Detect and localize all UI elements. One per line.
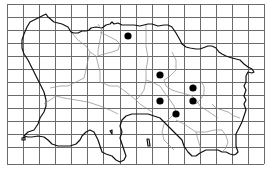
record-dot: [189, 97, 196, 104]
distribution-map: [0, 0, 269, 181]
islet: [147, 139, 150, 146]
grid-lines: [7, 4, 265, 165]
record-dot: [156, 71, 163, 78]
record-dots: [124, 32, 196, 117]
coastline: [22, 14, 254, 162]
record-dot: [156, 97, 163, 104]
record-dot: [124, 32, 131, 39]
islet: [110, 130, 112, 134]
record-dot: [189, 84, 196, 91]
record-dot: [172, 110, 179, 117]
